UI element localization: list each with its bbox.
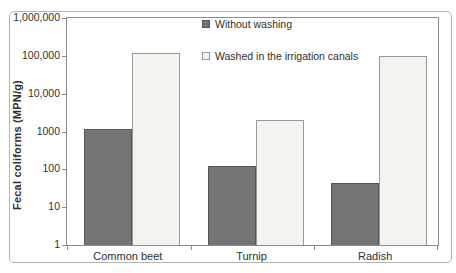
legend-row-0: Without washing — [202, 17, 358, 31]
y-tick-label: 100 — [8, 163, 60, 174]
y-tick-mark — [62, 94, 67, 95]
y-tick-label: 1000 — [8, 125, 60, 136]
y-tick-mark — [62, 132, 67, 133]
bar-turnip-series-0 — [208, 166, 256, 245]
y-tick-mark — [62, 169, 67, 170]
bar-common-beet-series-0 — [84, 129, 132, 246]
bar-turnip-series-1 — [256, 120, 304, 245]
bar-common-beet-series-1 — [132, 53, 180, 245]
legend-label: Without washing — [215, 18, 292, 30]
chart-figure: Fecal coliforms (MPN/g) 1,000,000100,000… — [0, 0, 456, 273]
bar-radish-series-1 — [379, 56, 427, 245]
legend-row-1: Washed in the irrigation canals — [202, 49, 358, 63]
y-axis-title: Fecal coliforms (MPN/g) — [11, 80, 23, 210]
y-tick-label: 1,000,000 — [8, 12, 60, 23]
x-tick-mark — [437, 245, 438, 250]
y-tick-label: 1 — [8, 239, 60, 250]
y-tick-mark — [62, 56, 67, 57]
open-square-icon — [202, 52, 210, 60]
x-category-label-turnip: Turnip — [190, 249, 314, 263]
y-tick-mark — [62, 207, 67, 208]
legend: Without washingWashed in the irrigation … — [202, 17, 358, 81]
y-tick-label: 10 — [8, 201, 60, 212]
y-tick-mark — [62, 18, 67, 19]
x-category-label-common-beet: Common beet — [66, 249, 190, 263]
y-tick-label: 10,000 — [8, 87, 60, 98]
filled-square-icon — [202, 20, 210, 28]
y-tick-label: 100,000 — [8, 49, 60, 60]
legend-label: Washed in the irrigation canals — [215, 50, 358, 62]
x-category-label-radish: Radish — [313, 249, 437, 263]
bar-radish-series-0 — [331, 183, 379, 246]
